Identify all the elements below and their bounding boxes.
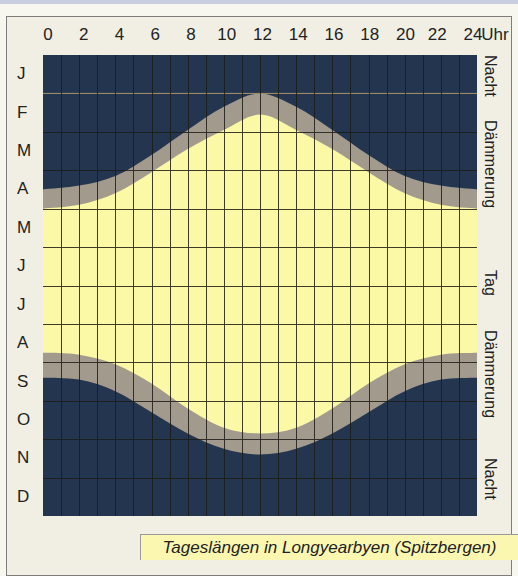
hour-tick-label: 6 [151, 25, 160, 45]
month-tick-label: J [17, 256, 26, 276]
month-tick-label: F [17, 103, 27, 123]
zone-label-dmmerung: Dämmerung [481, 330, 499, 418]
month-tick-label: D [17, 487, 29, 507]
zone-label-nacht: Nacht [481, 55, 499, 97]
hour-tick-label: 16 [325, 25, 344, 45]
month-tick-label: M [17, 218, 31, 238]
hour-tick-label: 8 [186, 25, 195, 45]
zone-label-tag: Tag [481, 270, 499, 296]
zone-label-dmmerung: Dämmerung [481, 120, 499, 208]
day-length-plot [43, 55, 477, 516]
hour-tick-label: 0 [43, 25, 52, 45]
hour-tick-label: 22 [428, 25, 447, 45]
month-tick-label: J [17, 295, 26, 315]
hour-tick-label: 20 [396, 25, 415, 45]
hour-tick-label: 24 [464, 25, 483, 45]
month-tick-label: A [17, 179, 28, 199]
hour-tick-label: 12 [253, 25, 272, 45]
month-tick-label: A [17, 333, 28, 353]
month-tick-label: N [17, 448, 29, 468]
plot-area [43, 55, 477, 516]
hour-tick-label: 18 [360, 25, 379, 45]
month-tick-label: M [17, 141, 31, 161]
month-tick-label: O [17, 410, 30, 430]
zone-label-nacht: Nacht [481, 458, 499, 500]
month-tick-label: S [17, 372, 28, 392]
hour-tick-label: 2 [79, 25, 88, 45]
top-strip [0, 0, 518, 4]
hour-tick-label: 14 [289, 25, 308, 45]
month-tick-label: J [17, 64, 26, 84]
hour-tick-label: 4 [115, 25, 124, 45]
hour-tick-label: 10 [217, 25, 236, 45]
hour-unit-label: Uhr [481, 25, 508, 45]
chart-caption: Tageslängen in Longyearbyen (Spitzbergen… [140, 534, 518, 560]
